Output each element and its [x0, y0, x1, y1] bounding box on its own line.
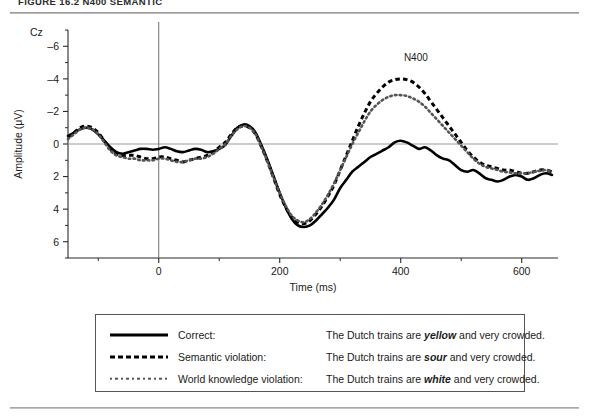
legend-sentence: The Dutch trains are sour and very crowd… — [326, 351, 536, 363]
legend-swatch-dotted-icon — [110, 373, 168, 385]
legend-sentence-critical-word: sour — [424, 351, 447, 363]
x-axis-tick-label: 400 — [392, 265, 410, 277]
legend-sentence-pre: The Dutch trains are — [326, 373, 424, 385]
legend-condition-name: Semantic violation: — [178, 351, 326, 363]
x-axis-tick-label: 0 — [156, 265, 162, 277]
n400-annotation: N400 — [404, 52, 428, 63]
legend-condition-name: Correct: — [178, 329, 326, 341]
x-axis-tick-label: 200 — [271, 265, 289, 277]
erp-waveform-dashed — [68, 79, 552, 224]
legend-sentence-pre: The Dutch trains are — [326, 351, 424, 363]
legend-row: Semantic violation: The Dutch trains are… — [96, 345, 524, 368]
y-axis-tick-label: 2 — [53, 170, 59, 182]
legend-sentence-post: and very crowded. — [447, 351, 536, 363]
legend-sentence-critical-word: white — [424, 373, 451, 385]
legend-row: World knowledge violation: The Dutch tra… — [96, 367, 524, 390]
legend-box: Correct: The Dutch trains are yellow and… — [95, 314, 525, 392]
x-axis-tick-label: 600 — [513, 265, 531, 277]
erp-waveform-solid — [68, 124, 552, 227]
y-axis-tick-label: –4 — [47, 73, 59, 85]
legend-swatch-solid-icon — [110, 329, 168, 341]
bottom-divider — [10, 407, 579, 409]
erp-waveform-dotted — [68, 95, 552, 222]
legend-sentence: The Dutch trains are yellow and very cro… — [326, 329, 545, 341]
y-axis-title: Amplitude (μV) — [12, 109, 24, 179]
erp-plot: –6–4–202460200400600Time (ms)Amplitude (… — [0, 0, 589, 300]
legend-swatch-dashed-icon — [110, 351, 168, 363]
erp-svg: –6–4–202460200400600Time (ms)Amplitude (… — [0, 0, 589, 300]
y-axis-tick-label: 4 — [53, 203, 59, 215]
legend-sentence: The Dutch trains are white and very crow… — [326, 373, 540, 385]
y-axis-tick-label: –2 — [47, 105, 59, 117]
legend-condition-name: World knowledge violation: — [178, 373, 326, 385]
legend-sentence-pre: The Dutch trains are — [326, 329, 424, 341]
legend-sentence-post: and very crowded. — [451, 373, 540, 385]
y-axis-tick-label: 0 — [53, 138, 59, 150]
channel-label: Cz — [30, 26, 43, 38]
legend-row: Correct: The Dutch trains are yellow and… — [96, 323, 524, 346]
legend-sentence-critical-word: yellow — [424, 329, 456, 341]
legend-sentence-post: and very crowded. — [456, 329, 545, 341]
y-axis-tick-label: –6 — [47, 40, 59, 52]
y-axis-tick-label: 6 — [53, 236, 59, 248]
x-axis-title: Time (ms) — [290, 281, 337, 293]
